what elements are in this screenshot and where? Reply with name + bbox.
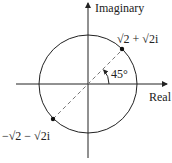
- real-axis-label: Real: [149, 90, 172, 104]
- point-upper: [120, 47, 124, 51]
- imaginary-axis-label: Imaginary: [95, 1, 144, 15]
- complex-plane-diagram: Imaginary Real 45° √2 + √2i −√2 − √2i: [0, 0, 172, 163]
- point-upper-label: √2 + √2i: [117, 32, 159, 46]
- angle-label: 45°: [111, 67, 128, 81]
- point-lower: [51, 117, 55, 121]
- point-lower-label: −√2 − √2i: [2, 129, 51, 143]
- angle-arc: [104, 70, 109, 84]
